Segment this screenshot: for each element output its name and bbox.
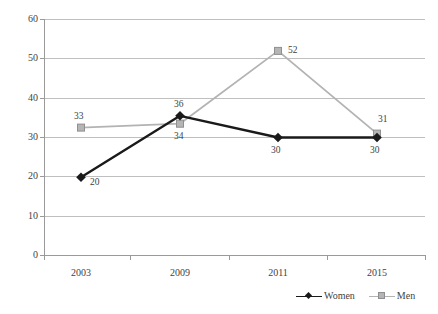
legend-label-women: Women (324, 291, 355, 301)
y-tick-0: 0 (10, 250, 38, 260)
x-tick-label-2009: 2009 (170, 267, 190, 278)
series-men-marker-2011 (275, 47, 282, 54)
y-tick-20: 20 (10, 171, 38, 181)
y-tick-label-20: 20 (10, 171, 38, 181)
x-tick-label-2003: 2003 (71, 267, 91, 278)
x-tick-2009: 2009 (150, 262, 210, 274)
y-tick-60: 60 (10, 14, 38, 24)
data-label-women-2003: 20 (90, 177, 100, 187)
legend-item-men[interactable]: Men (369, 291, 415, 301)
x-tick-2011: 2011 (248, 262, 308, 274)
data-label-men-2011: 52 (288, 45, 298, 55)
x-tick-2015: 2015 (347, 262, 407, 274)
y-tick-label-30: 30 (10, 132, 38, 142)
series-men-line (81, 51, 377, 134)
series-men-marker-2003 (78, 124, 85, 131)
y-tick-40: 40 (10, 93, 38, 103)
gridlines (44, 20, 425, 217)
series-men-marker-2009 (177, 120, 184, 127)
legend-marker-women-icon (296, 292, 322, 301)
series-men (78, 47, 381, 137)
y-tick-label-40: 40 (10, 93, 38, 103)
y-tick-label-10: 10 (10, 211, 38, 221)
legend-item-women[interactable]: Women (296, 291, 355, 301)
series-women-marker-2011 (273, 133, 283, 143)
data-label-men-2009: 34 (174, 131, 184, 141)
data-label-men-2003: 33 (74, 111, 84, 121)
line-chart: 60 50 40 30 20 10 0 2003 2009 2011 2015 … (0, 0, 438, 314)
data-label-women-2009: 36 (174, 99, 184, 109)
y-tick-label-0: 0 (10, 250, 38, 260)
data-label-men-2015: 31 (378, 114, 388, 124)
chart-legend: Women Men (296, 291, 415, 301)
legend-marker-men-icon (369, 292, 395, 301)
data-label-women-2015: 30 (370, 145, 380, 155)
legend-label-men: Men (397, 291, 415, 301)
x-tick-label-2011: 2011 (268, 267, 288, 278)
y-axis-ticks (40, 20, 44, 256)
y-tick-label-50: 50 (10, 53, 38, 63)
data-label-women-2011: 30 (271, 145, 281, 155)
y-tick-50: 50 (10, 53, 38, 63)
series-women (76, 111, 382, 182)
y-tick-10: 10 (10, 211, 38, 221)
x-tick-2003: 2003 (51, 262, 111, 274)
y-tick-label-60: 60 (10, 14, 38, 24)
x-tick-label-2015: 2015 (367, 267, 387, 278)
y-tick-30: 30 (10, 132, 38, 142)
